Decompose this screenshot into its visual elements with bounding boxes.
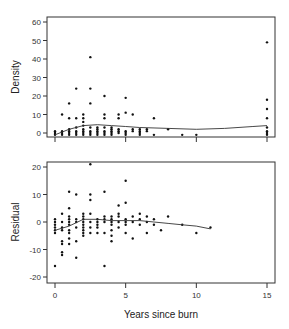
- data-point: [132, 215, 134, 217]
- data-point: [110, 235, 112, 237]
- data-point: [89, 199, 91, 201]
- top-y-axis: 0102030405060: [32, 18, 47, 138]
- y-tick-label: 50: [32, 37, 41, 46]
- bottom-y-axis-label: Residual: [10, 203, 21, 242]
- data-point: [89, 56, 91, 58]
- data-point: [117, 113, 119, 115]
- data-point: [146, 232, 148, 234]
- residual-points: [54, 163, 212, 267]
- data-point: [54, 232, 56, 234]
- data-point: [82, 232, 84, 234]
- data-point: [68, 102, 70, 104]
- data-point: [103, 130, 105, 132]
- data-point: [117, 117, 119, 119]
- data-point: [54, 226, 56, 228]
- data-point: [82, 215, 84, 217]
- data-point: [124, 130, 126, 132]
- data-point: [110, 224, 112, 226]
- data-point: [54, 218, 56, 220]
- data-point: [68, 134, 70, 136]
- data-point: [103, 232, 105, 234]
- data-point: [82, 229, 84, 231]
- data-point: [54, 130, 56, 132]
- data-point: [110, 240, 112, 242]
- data-point: [103, 191, 105, 193]
- data-point: [82, 221, 84, 223]
- data-point: [75, 87, 77, 89]
- y-tick-label: -20: [29, 273, 41, 282]
- y-tick-label: 10: [32, 111, 41, 120]
- data-point: [82, 226, 84, 228]
- data-point: [61, 251, 63, 253]
- data-point: [68, 243, 70, 245]
- data-point: [124, 221, 126, 223]
- residual-panel: -20-1001020 051015 Residual Years since …: [10, 162, 275, 320]
- data-point: [68, 117, 70, 119]
- data-point: [75, 257, 77, 259]
- data-point: [124, 97, 126, 99]
- bottom-x-axis: 051015: [53, 283, 272, 300]
- density-points: [54, 41, 268, 136]
- data-point: [96, 221, 98, 223]
- data-point: [61, 113, 63, 115]
- data-point: [103, 113, 105, 115]
- data-point: [153, 224, 155, 226]
- data-point: [110, 215, 112, 217]
- y-tick-label: 0: [37, 218, 42, 227]
- data-point: [103, 117, 105, 119]
- data-point: [75, 193, 77, 195]
- x-tick-label: 0: [53, 291, 58, 300]
- data-point: [75, 240, 77, 242]
- data-point: [89, 87, 91, 89]
- data-point: [68, 232, 70, 234]
- data-point: [96, 224, 98, 226]
- data-point: [68, 207, 70, 209]
- data-point: [54, 224, 56, 226]
- data-point: [117, 213, 119, 215]
- data-point: [68, 218, 70, 220]
- data-point: [117, 204, 119, 206]
- data-point: [153, 218, 155, 220]
- data-point: [195, 134, 197, 136]
- data-point: [139, 224, 141, 226]
- y-tick-label: 10: [32, 191, 41, 200]
- data-point: [117, 215, 119, 217]
- data-point: [96, 232, 98, 234]
- data-point: [89, 193, 91, 195]
- data-point: [167, 215, 169, 217]
- data-point: [181, 134, 183, 136]
- data-point: [132, 237, 134, 239]
- data-point: [124, 134, 126, 136]
- data-point: [82, 128, 84, 130]
- data-point: [124, 232, 126, 234]
- top-plot-frame: [47, 17, 275, 137]
- data-point: [153, 117, 155, 119]
- data-point: [96, 134, 98, 136]
- data-point: [132, 221, 134, 223]
- data-point: [68, 237, 70, 239]
- data-point: [61, 221, 63, 223]
- y-tick-label: -10: [29, 246, 41, 255]
- data-point: [75, 117, 77, 119]
- y-tick-label: 20: [32, 163, 41, 172]
- data-point: [132, 128, 134, 130]
- data-point: [89, 163, 91, 165]
- data-point: [89, 134, 91, 136]
- data-point: [103, 134, 105, 136]
- data-point: [266, 130, 268, 132]
- data-point: [266, 108, 268, 110]
- data-point: [124, 180, 126, 182]
- data-point: [82, 113, 84, 115]
- data-point: [124, 224, 126, 226]
- data-point: [61, 254, 63, 256]
- data-point: [146, 215, 148, 217]
- data-point: [61, 134, 63, 136]
- x-tick-label: 5: [123, 291, 128, 300]
- data-point: [266, 41, 268, 43]
- data-point: [68, 191, 70, 193]
- data-point: [68, 229, 70, 231]
- data-point: [195, 232, 197, 234]
- data-point: [103, 265, 105, 267]
- data-point: [75, 130, 77, 132]
- data-point: [266, 99, 268, 101]
